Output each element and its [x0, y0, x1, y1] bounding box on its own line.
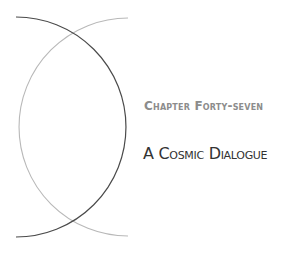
chapter-title: A Cosmic Dialogue [143, 143, 267, 165]
dark-arc [16, 17, 126, 237]
light-arc [19, 18, 128, 236]
interlocking-arcs-ornament [0, 0, 296, 257]
chapter-number-label: Chapter Forty-seven [144, 98, 263, 114]
